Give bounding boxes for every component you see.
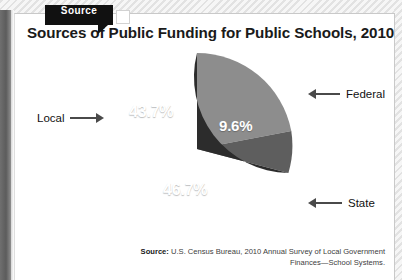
callout-state-label: State	[348, 197, 375, 209]
pie-value-state: 46.7%	[163, 181, 207, 199]
callout-local-arrow-icon	[96, 113, 104, 123]
source-note-text-1: U.S. Census Bureau, 2010 Annual Survey o…	[169, 247, 385, 256]
source-tab[interactable]: Source	[45, 5, 113, 25]
pie-graphic: 43.7% 9.6% 46.7%	[101, 53, 293, 245]
source-note-line-2: Finances—School Systems.	[135, 257, 385, 268]
callout-federal-arrow-icon	[308, 89, 316, 99]
page-gutter	[0, 10, 11, 280]
callout-state-arrow-icon	[308, 198, 316, 208]
source-tab-label: Source	[45, 5, 113, 16]
pie-value-local: 43.7%	[129, 103, 173, 121]
source-note: Source: U.S. Census Bureau, 2010 Annual …	[135, 246, 385, 268]
callout-local: Local	[37, 112, 104, 124]
pie-svg	[101, 53, 293, 245]
pie-chart: 43.7% 9.6% 46.7% Local Federal State	[15, 44, 396, 249]
source-note-prefix: Source:	[141, 247, 169, 256]
pie-value-federal: 9.6%	[219, 117, 252, 134]
page-root: Source Sources of Public Funding for Pub…	[0, 0, 402, 280]
callout-local-line-icon	[70, 117, 96, 119]
callout-state-line-icon	[316, 202, 342, 204]
tab-adjacent-square	[116, 10, 130, 24]
callout-federal-label: Federal	[346, 88, 385, 100]
page-title: Sources of Public Funding for Public Sch…	[27, 24, 387, 42]
callout-state: State	[308, 197, 375, 209]
callout-local-label: Local	[37, 112, 65, 124]
callout-federal-line-icon	[316, 93, 340, 95]
source-tab-pointer-icon	[98, 25, 108, 34]
source-note-line-1: Source: U.S. Census Bureau, 2010 Annual …	[135, 246, 385, 257]
callout-federal: Federal	[308, 88, 385, 100]
figure-card: Source Sources of Public Funding for Pub…	[14, 13, 395, 280]
